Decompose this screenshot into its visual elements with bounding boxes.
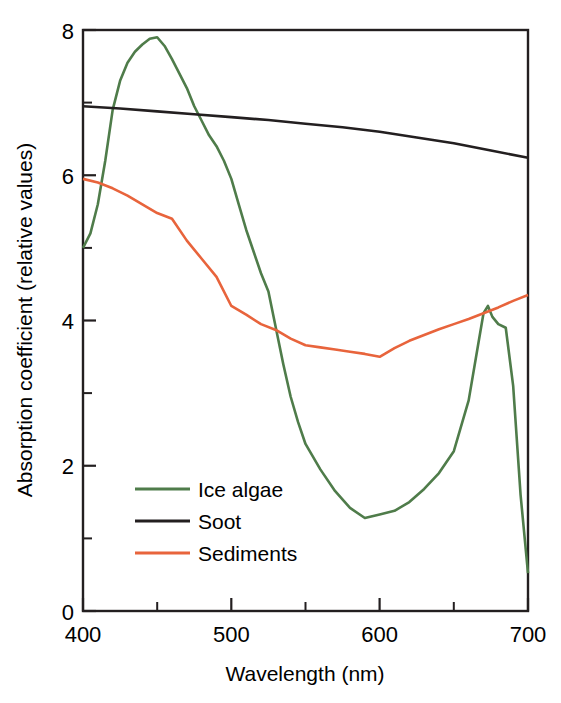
y-axis-title: Absorption coefficient (relative values): [13, 143, 36, 497]
y-tick-label-8: 8: [62, 19, 74, 44]
y-tick-label-6: 6: [62, 164, 74, 189]
series-line-sediments: [83, 179, 528, 357]
legend-label-sediments: Sediments: [198, 542, 297, 565]
series-line-ice-algae: [83, 37, 528, 573]
y-axis-major-ticks: [83, 30, 96, 611]
y-tick-label-2: 2: [62, 454, 74, 479]
series-group: [83, 37, 528, 573]
chart-canvas: 0 2 4 6 8 400 500 600 700 Wavelength (nm…: [0, 0, 561, 703]
x-tick-label-700: 700: [510, 622, 547, 647]
x-tick-label-400: 400: [65, 622, 102, 647]
absorption-spectra-figure: 0 2 4 6 8 400 500 600 700 Wavelength (nm…: [0, 0, 561, 703]
x-axis-minor-ticks: [157, 602, 454, 611]
series-line-soot: [83, 106, 528, 158]
x-axis-title: Wavelength (nm): [225, 662, 384, 685]
x-tick-label-600: 600: [361, 622, 398, 647]
chart-legend: Ice algaeSootSediments: [135, 478, 297, 565]
y-tick-label-4: 4: [62, 309, 74, 334]
legend-label-soot: Soot: [198, 510, 241, 533]
legend-label-ice-algae: Ice algae: [198, 478, 283, 501]
x-tick-label-500: 500: [213, 622, 250, 647]
